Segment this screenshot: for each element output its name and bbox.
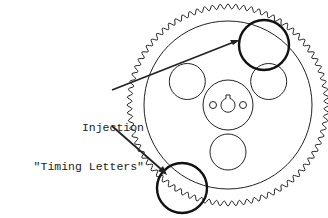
gear-inner-ring [144, 21, 312, 189]
gear-window-3 [210, 134, 246, 170]
timing-mark-highlights [157, 20, 289, 213]
gear-teeth-outline [127, 4, 328, 206]
label-line-timing-letters: "Timing Letters" [34, 160, 144, 173]
label-line-injection: Injection [34, 121, 144, 134]
timing-gear-diagram: Injection "Timing Letters" [0, 0, 328, 218]
shaft-keyhole-icon [221, 95, 235, 112]
bolt-hole-right [240, 102, 247, 109]
timing-letters-label: Injection "Timing Letters" [34, 95, 144, 199]
gear-hub [203, 80, 253, 130]
gear-windows [169, 64, 286, 171]
gear-window-1 [169, 64, 205, 100]
bolt-hole-left [210, 102, 217, 109]
upper-timing-mark-circle [239, 20, 289, 70]
